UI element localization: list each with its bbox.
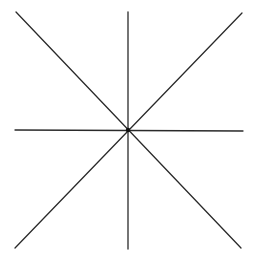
center-point: [126, 128, 130, 132]
radial-lines-diagram: [0, 0, 253, 264]
